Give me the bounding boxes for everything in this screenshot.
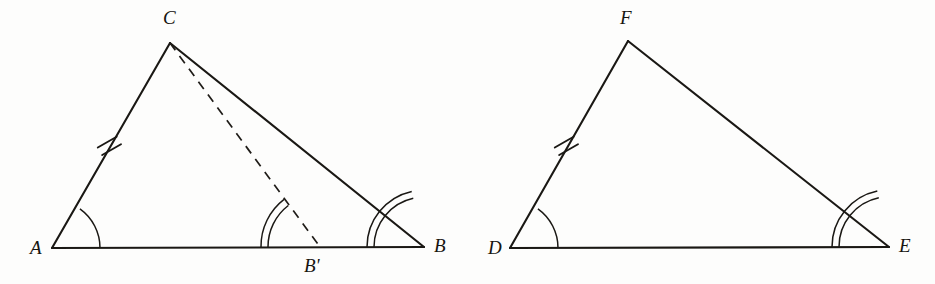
label-B: B [434,235,446,256]
edge-AB [52,247,424,248]
label-B-prime: B' [304,255,321,276]
edge-AC [52,43,170,248]
edge-DE [510,247,889,248]
tick-mark-AC [98,137,121,155]
edge-DF [510,41,628,248]
label-F: F [619,7,632,28]
figure-canvas: A B C B' D [0,0,935,284]
angle-mark-D [538,209,558,248]
triangle-DEF: D E F [487,7,911,258]
angle-mark-A [80,209,100,248]
label-D: D [487,237,502,258]
angle-mark-B-prime [261,199,288,247]
tick-mark-DF [555,137,578,155]
angle-mark-E [832,191,879,247]
label-C: C [163,7,176,28]
label-A: A [28,237,42,258]
label-E: E [898,235,911,256]
geometry-figure: A B C B' D [0,0,935,284]
triangle-ABC: A B C B' [28,7,446,276]
